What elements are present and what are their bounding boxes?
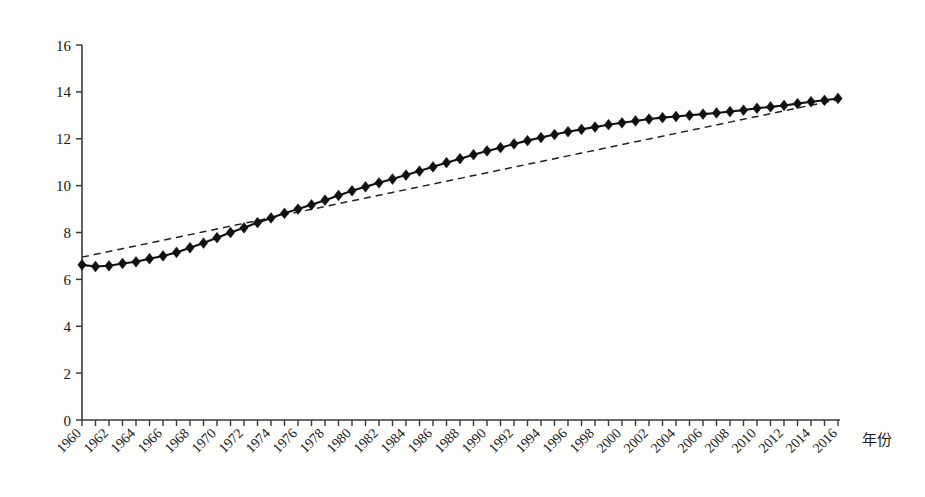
data-point-marker: [645, 114, 653, 125]
data-point-marker: [118, 258, 126, 269]
data-point-marker: [685, 110, 693, 121]
x-tick-label: 2014: [783, 426, 813, 456]
x-tick-label: 1976: [270, 426, 300, 456]
x-tick-label: 1988: [432, 426, 462, 456]
x-tick-label: 1996: [540, 426, 570, 456]
data-point-marker: [456, 153, 464, 164]
x-tick-label: 1978: [297, 426, 327, 456]
chart-container: 0246810121416 19601962196419661968197019…: [0, 0, 925, 497]
x-tick-label: 1970: [189, 426, 219, 456]
x-tick-label: 1962: [81, 426, 111, 456]
data-point-marker: [267, 213, 275, 224]
data-point-marker: [780, 100, 788, 111]
data-point-marker: [807, 96, 815, 107]
y-tick-label: 16: [56, 38, 72, 54]
x-tick-label: 2000: [594, 426, 624, 456]
data-point-marker: [834, 93, 842, 104]
data-point-marker: [469, 149, 477, 160]
data-point-marker: [699, 109, 707, 120]
data-point-marker: [483, 146, 491, 157]
data-point-marker: [199, 238, 207, 249]
data-point-marker: [766, 101, 774, 112]
x-tick-label: 1984: [378, 426, 408, 456]
y-tick-label: 8: [64, 225, 72, 241]
x-tick-label: 1964: [108, 426, 138, 456]
data-point-marker: [726, 106, 734, 117]
data-point-marker: [658, 112, 666, 123]
x-tick-label: 1992: [486, 426, 516, 456]
data-point-marker: [213, 232, 221, 243]
x-tick-label: 2006: [675, 426, 705, 456]
data-point-marker: [712, 108, 720, 119]
line-chart: 0246810121416 19601962196419661968197019…: [0, 0, 925, 497]
data-point-marker: [523, 135, 531, 146]
data-point-marker: [145, 253, 153, 264]
y-tick-label: 6: [64, 272, 72, 288]
data-point-marker: [91, 261, 99, 272]
x-tick-label: 1990: [459, 426, 489, 456]
x-tick-label: 2004: [648, 426, 678, 456]
data-point-marker: [388, 174, 396, 185]
x-tick-label: 2002: [621, 426, 651, 456]
data-point-marker: [591, 122, 599, 133]
data-point-marker: [280, 208, 288, 219]
data-point-marker: [672, 111, 680, 122]
y-tick-group: [76, 45, 82, 420]
data-point-marker: [334, 190, 342, 201]
y-tick-label: 14: [56, 84, 72, 100]
x-tick-label: 1980: [324, 426, 354, 456]
data-point-marker: [105, 260, 113, 271]
y-tick-label: 4: [64, 319, 72, 335]
x-tick-label: 1960: [54, 426, 84, 456]
x-tick-label-group: 1960196219641966196819701972197419761978…: [54, 426, 840, 456]
y-tick-label: 0: [64, 413, 72, 429]
x-tick-label: 1972: [216, 426, 246, 456]
x-tick-label: 1998: [567, 426, 597, 456]
data-point-marker: [226, 227, 234, 238]
data-point-marker: [604, 119, 612, 130]
x-tick-label: 1986: [405, 426, 435, 456]
x-tick-label: 1982: [351, 426, 381, 456]
data-point-marker: [510, 139, 518, 150]
data-series-line: [82, 98, 838, 266]
data-point-marker: [415, 166, 423, 177]
data-point-marker: [186, 242, 194, 253]
x-tick-label: 2010: [729, 426, 759, 456]
x-tick-label: 2016: [810, 426, 840, 456]
x-tick-label: 2012: [756, 426, 786, 456]
data-point-marker: [172, 247, 180, 258]
y-tick-label-group: 0246810121416: [56, 38, 72, 429]
data-point-marker: [739, 105, 747, 116]
data-point-marker: [496, 142, 504, 153]
x-tick-label: 1968: [162, 426, 192, 456]
y-tick-label: 2: [64, 366, 72, 382]
x-tick-label: 2008: [702, 426, 732, 456]
data-point-marker: [631, 116, 639, 127]
data-point-marker: [577, 124, 585, 135]
data-point-marker: [429, 161, 437, 172]
x-axis-title: 年份: [862, 432, 892, 448]
y-tick-label: 10: [56, 178, 71, 194]
data-point-marker: [78, 259, 86, 270]
trendline-dashed: [82, 100, 838, 257]
data-point-marker: [361, 181, 369, 192]
data-point-marker: [375, 177, 383, 188]
data-point-markers: [78, 93, 842, 272]
data-point-marker: [159, 251, 167, 262]
x-tick-label: 1966: [135, 426, 165, 456]
data-point-marker: [321, 195, 329, 206]
data-point-marker: [132, 256, 140, 267]
data-point-marker: [564, 126, 572, 137]
data-point-marker: [753, 103, 761, 114]
x-tick-label: 1994: [513, 426, 543, 456]
data-point-marker: [307, 199, 315, 210]
data-point-marker: [550, 129, 558, 140]
data-point-marker: [442, 157, 450, 168]
data-point-marker: [537, 132, 545, 143]
data-point-marker: [820, 95, 828, 106]
data-point-marker: [253, 217, 261, 228]
data-point-marker: [402, 170, 410, 181]
data-point-marker: [618, 117, 626, 128]
x-tick-label: 1974: [243, 426, 273, 456]
axes-group: [82, 45, 840, 420]
